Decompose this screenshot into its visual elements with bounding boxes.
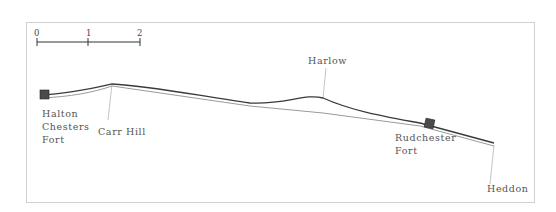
label-halton-2: Chesters xyxy=(42,121,90,132)
label-harlow: Harlow xyxy=(308,55,347,66)
label-rudchester-2: Fort xyxy=(395,145,418,156)
scale-bar: 0 1 2 xyxy=(34,28,142,46)
label-carr-hill: Carr Hill xyxy=(98,126,146,137)
label-halton-3: Fort xyxy=(42,134,65,145)
scale-tick-1: 1 xyxy=(86,28,91,38)
scale-tick-2: 2 xyxy=(137,28,142,38)
label-rudchester-1: Rudchester xyxy=(395,132,456,143)
scale-tick-0: 0 xyxy=(34,28,39,38)
halton-chesters-fort-marker xyxy=(40,90,49,99)
leader-lines xyxy=(108,68,494,184)
rudchester-fort-marker xyxy=(424,118,435,129)
label-heddon: Heddon xyxy=(487,183,529,194)
route-map: 0 1 2 Halton Chesters Fort Carr Hill Har… xyxy=(0,0,556,212)
label-halton-1: Halton xyxy=(42,108,78,119)
